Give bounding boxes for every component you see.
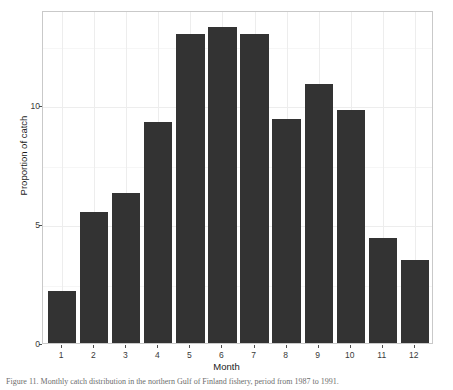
- x-tick-label-5: 5: [177, 350, 201, 360]
- figure-caption: Figure 11. Monthly catch distribution in…: [6, 377, 453, 387]
- x-tick-mark: [93, 345, 94, 348]
- x-tick-label-9: 9: [306, 350, 330, 360]
- bar-month-4: [144, 122, 172, 343]
- bar-month-11: [369, 238, 397, 343]
- x-tick-mark: [189, 345, 190, 348]
- x-tick-mark: [414, 345, 415, 348]
- x-tick-label-7: 7: [242, 350, 266, 360]
- x-tick-mark: [350, 345, 351, 348]
- bar-month-3: [112, 193, 140, 343]
- bar-month-10: [337, 110, 365, 343]
- gridline-minor: [43, 167, 432, 168]
- x-axis-title: Month: [0, 361, 453, 372]
- y-tick-label-10: 10: [14, 101, 40, 111]
- x-tick-mark: [318, 345, 319, 348]
- x-tick-label-11: 11: [370, 350, 394, 360]
- y-tick-label-0: 0: [14, 339, 40, 349]
- plot-panel: [42, 11, 433, 344]
- x-tick-mark: [254, 345, 255, 348]
- bar-month-8: [272, 119, 300, 343]
- bar-month-1: [48, 291, 76, 343]
- x-tick-label-1: 1: [49, 350, 73, 360]
- x-tick-mark: [286, 345, 287, 348]
- gridline-major: [43, 107, 432, 108]
- x-tick-mark: [125, 345, 126, 348]
- x-tick-mark: [61, 345, 62, 348]
- x-tick-mark: [221, 345, 222, 348]
- bar-month-12: [401, 260, 429, 343]
- x-tick-label-4: 4: [145, 350, 169, 360]
- x-tick-mark: [382, 345, 383, 348]
- figure: Proportion of catch 0510123456789101112 …: [0, 0, 453, 373]
- x-tick-label-2: 2: [81, 350, 105, 360]
- x-tick-label-12: 12: [402, 350, 426, 360]
- bar-month-9: [305, 84, 333, 343]
- x-tick-mark: [157, 345, 158, 348]
- x-tick-label-10: 10: [338, 350, 362, 360]
- bar-month-5: [176, 34, 204, 343]
- x-tick-label-8: 8: [274, 350, 298, 360]
- bar-month-2: [80, 212, 108, 343]
- bar-month-6: [208, 27, 236, 343]
- x-tick-label-3: 3: [113, 350, 137, 360]
- x-tick-label-6: 6: [209, 350, 233, 360]
- y-tick-label-5: 5: [14, 220, 40, 230]
- bar-month-7: [240, 34, 268, 343]
- gridline-minor: [43, 48, 432, 49]
